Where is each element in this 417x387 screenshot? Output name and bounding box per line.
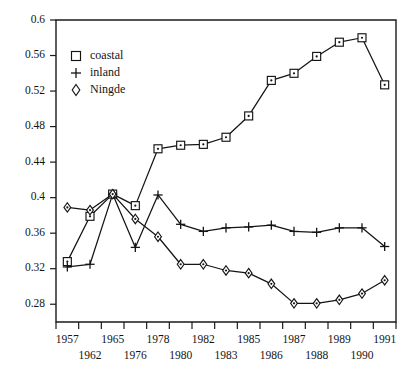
marker-center-dot (316, 55, 318, 57)
x-tick-label: 1983 (215, 349, 238, 361)
marker-center-dot (316, 302, 318, 304)
marker-center-dot (338, 299, 340, 301)
x-tick-label: 1990 (351, 349, 374, 361)
marker-center-dot (248, 272, 250, 274)
x-tick-label: 1987 (283, 333, 306, 345)
legend-item-Ningde: Ningde (72, 82, 125, 96)
x-tick-label: 1982 (192, 333, 215, 345)
legend-label: coastal (90, 48, 124, 62)
chart-legend: coastalinlandNingde (71, 48, 125, 96)
x-tick-label: 1957 (56, 333, 79, 345)
chart-figure: 0.280.320.360.40.440.480.520.560.6 19571… (0, 0, 417, 387)
marker-center-dot (384, 84, 386, 86)
marker-center-dot (225, 136, 227, 138)
marker-center-dot (293, 72, 295, 74)
x-tick-label: 1976 (124, 349, 147, 361)
marker-center-dot (202, 263, 204, 265)
legend-item-inland: inland (71, 65, 120, 79)
y-tick-label: 0.56 (25, 48, 45, 60)
x-tick-label: 1988 (305, 349, 328, 361)
marker-center-dot (66, 206, 68, 208)
x-tick-label: 1986 (260, 349, 283, 361)
x-tick-label: 1980 (169, 349, 192, 361)
y-tick-label: 0.36 (25, 226, 45, 238)
y-tick-label: 0.28 (25, 297, 45, 309)
x-tick-label: 1991 (373, 333, 396, 345)
marker-center-dot (338, 41, 340, 43)
marker-center-dot (134, 205, 136, 207)
y-tick-label: 0.4 (31, 190, 46, 202)
marker-center-dot (134, 218, 136, 220)
marker-center-dot (112, 193, 114, 195)
series-inland (63, 189, 390, 271)
x-tick-label: 1962 (79, 349, 102, 361)
x-tick-label: 1985 (237, 333, 260, 345)
marker-center-dot (157, 148, 159, 150)
marker-center-dot (180, 263, 182, 265)
legend-marker-square (72, 52, 81, 61)
y-tick-label: 0.48 (25, 119, 45, 131)
marker-center-dot (293, 302, 295, 304)
y-tick-label: 0.6 (31, 13, 46, 25)
marker-center-dot (225, 269, 227, 271)
y-axis-ticks (50, 20, 56, 304)
y-tick-label: 0.32 (25, 261, 45, 273)
series-Ningde (64, 189, 388, 308)
marker-center-dot (157, 236, 159, 238)
x-tick-label: 1978 (147, 333, 170, 345)
y-tick-label: 0.52 (25, 84, 45, 96)
marker-center-dot (384, 279, 386, 281)
marker-center-dot (361, 37, 363, 39)
marker-center-dot (270, 79, 272, 81)
y-axis-labels: 0.280.320.360.40.440.480.520.560.6 (25, 13, 45, 309)
marker-center-dot (270, 283, 272, 285)
x-axis-labels: 1957196219651976197819801982198319851986… (56, 333, 397, 361)
x-tick-label: 1965 (101, 333, 124, 345)
marker-center-dot (89, 209, 91, 211)
series-line (67, 194, 384, 303)
legend-label: Ningde (90, 82, 125, 96)
y-tick-label: 0.44 (25, 155, 45, 167)
x-tick-label: 1989 (328, 333, 351, 345)
marker-center-dot (180, 144, 182, 146)
x-axis-ticks (56, 322, 396, 329)
legend-label: inland (90, 65, 120, 79)
legend-item-coastal: coastal (72, 48, 124, 62)
marker-center-dot (202, 143, 204, 145)
marker-center-dot (361, 292, 363, 294)
line-chart: 0.280.320.360.40.440.480.520.560.6 19571… (0, 0, 417, 387)
legend-marker-diamond (72, 85, 80, 96)
marker-center-dot (248, 115, 250, 117)
